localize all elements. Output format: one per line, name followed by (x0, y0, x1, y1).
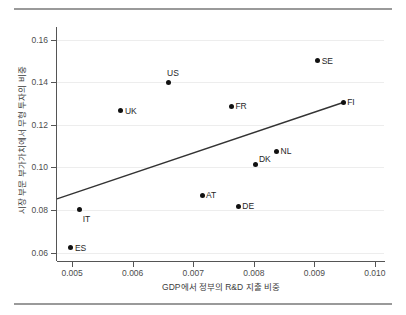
scatter-point[interactable] (166, 80, 171, 85)
point-label: IT (83, 215, 91, 224)
point-label: SE (322, 57, 333, 66)
figure-container: 0.060.080.100.120.140.16 0.0050.0060.007… (0, 0, 406, 315)
point-label: US (167, 69, 179, 78)
point-label: ES (75, 244, 86, 253)
scatter-point[interactable] (274, 149, 279, 154)
scatter-point[interactable] (200, 193, 205, 198)
point-label: UK (125, 107, 137, 116)
scatter-point[interactable] (341, 100, 346, 105)
scatter-point[interactable] (236, 204, 241, 209)
y-axis-title: 시장 부문 부가가치에서 무형 투자의 비중 (18, 40, 27, 240)
point-label: FR (235, 102, 246, 111)
x-axis-title: GDP에서 정부의 R&D 지출 비중 (57, 283, 385, 292)
scatter-point[interactable] (229, 104, 234, 109)
point-label: FI (347, 98, 355, 107)
point-label: AT (206, 191, 216, 200)
point-label: NL (281, 147, 292, 156)
point-label: DE (242, 202, 254, 211)
point-label: DK (259, 155, 271, 164)
trendline (0, 0, 406, 315)
